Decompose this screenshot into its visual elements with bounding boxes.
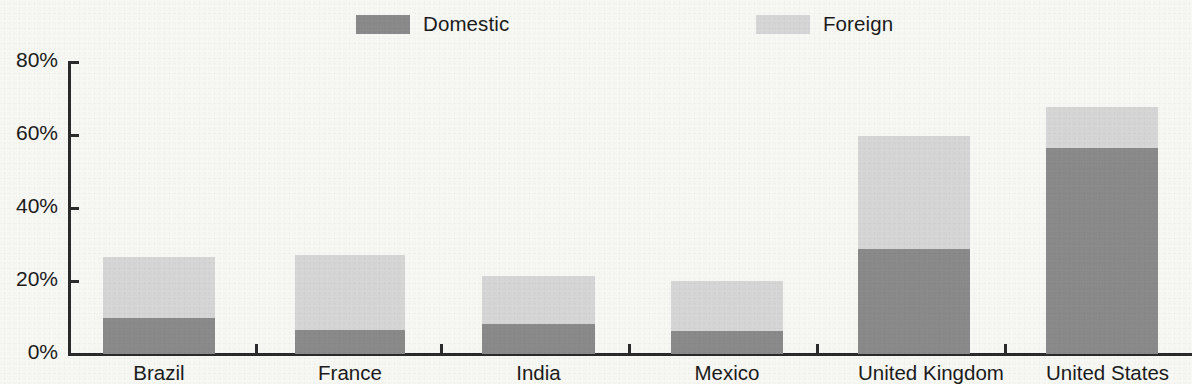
bar-segment-domestic xyxy=(295,330,405,354)
x-axis-tick xyxy=(816,344,819,354)
bar-stack xyxy=(295,255,405,354)
legend-item-foreign: Foreign xyxy=(756,12,893,36)
stacked-bar-chart: Domestic Foreign 0%20%40%60%80% BrazilFr… xyxy=(0,0,1192,384)
y-axis-tick-label: 0% xyxy=(0,340,58,364)
bar-segment-domestic xyxy=(1046,148,1158,354)
bar-segment-domestic xyxy=(858,249,970,354)
y-axis-tick xyxy=(68,134,79,137)
bar-segment-foreign xyxy=(103,257,215,318)
y-axis-tick-label: 80% xyxy=(0,48,58,72)
y-axis-tick-label: 20% xyxy=(0,267,58,291)
bar-segment-foreign xyxy=(482,276,595,324)
bar-stack xyxy=(482,276,595,354)
bar-stack xyxy=(1046,107,1158,354)
bar-segment-domestic xyxy=(671,331,783,354)
y-axis-tick xyxy=(68,207,79,210)
chart-legend: Domestic Foreign xyxy=(0,10,1192,38)
legend-swatch-icon-foreign xyxy=(756,15,810,34)
bar-segment-domestic xyxy=(482,324,595,354)
legend-label-foreign: Foreign xyxy=(823,12,893,36)
x-axis-tick xyxy=(628,344,631,354)
bar-segment-foreign xyxy=(858,136,970,249)
y-axis-tick xyxy=(68,353,79,356)
x-axis-category-label: Brazil xyxy=(103,361,215,384)
y-axis-tick xyxy=(68,280,79,283)
legend-swatch-icon-domestic xyxy=(356,15,410,34)
bar-segment-foreign xyxy=(295,255,405,330)
x-axis-category-label: India xyxy=(482,361,595,384)
x-axis-category-label: France xyxy=(295,361,405,384)
bar-segment-domestic xyxy=(103,318,215,354)
bar-segment-foreign xyxy=(671,281,783,331)
x-axis-category-label: Mexico xyxy=(671,361,783,384)
legend-item-domestic: Domestic xyxy=(356,12,509,36)
x-axis-tick xyxy=(255,344,258,354)
x-axis-category-label: United States xyxy=(1046,361,1158,384)
x-axis-category-label: United Kingdom xyxy=(858,361,970,384)
bar-stack xyxy=(103,257,215,354)
y-axis-tick-label: 60% xyxy=(0,121,58,145)
bar-segment-foreign xyxy=(1046,107,1158,148)
x-axis-tick xyxy=(440,344,443,354)
y-axis-tick-label: 40% xyxy=(0,194,58,218)
x-axis-tick xyxy=(1004,344,1007,354)
bar-stack xyxy=(858,136,970,354)
bar-stack xyxy=(671,281,783,354)
legend-label-domestic: Domestic xyxy=(423,12,509,36)
y-axis-tick xyxy=(68,61,79,64)
